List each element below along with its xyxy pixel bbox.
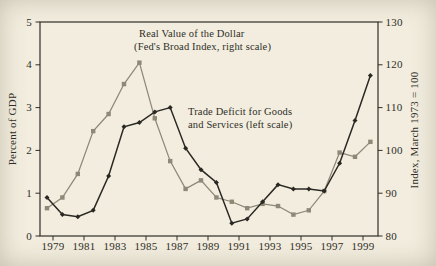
dollar-series-marker <box>353 155 357 159</box>
dollar-series-marker <box>76 172 80 176</box>
dollar-series-marker <box>307 208 311 212</box>
left-axis-tick-label: 5 <box>26 16 32 28</box>
annotation-deficit-line2: and Services (left scale) <box>188 119 292 132</box>
deficit-series-marker <box>291 186 296 191</box>
dollar-series-marker <box>106 112 110 116</box>
right-axis-tick-label: 90 <box>386 187 398 199</box>
dollar-series-marker <box>137 60 141 64</box>
right-axis-tick-label: 120 <box>386 58 404 70</box>
x-axis-tick-label: 1999 <box>351 240 374 252</box>
x-axis-tick-label: 1987 <box>165 240 188 252</box>
right-axis-tick-label: 80 <box>386 230 398 242</box>
left-axis-title: Percent of GDP <box>6 93 18 165</box>
deficit-series-marker <box>368 73 373 78</box>
annotation-deficit: Trade Deficit for Goods and Services (le… <box>188 106 292 131</box>
dollar-series-marker <box>230 200 234 204</box>
chart-page: 0123458090100110120130197919811983198519… <box>0 0 436 266</box>
dollar-series-marker <box>199 178 203 182</box>
dollar-series-marker <box>276 204 280 208</box>
x-axis-tick-label: 1997 <box>320 240 343 252</box>
dollar-series-marker <box>183 187 187 191</box>
x-axis-tick-label: 1979 <box>41 240 64 252</box>
dollar-series-marker <box>60 195 64 199</box>
deficit-series-marker <box>75 214 80 219</box>
deficit-series-marker <box>306 186 311 191</box>
dollar-series-marker <box>337 150 341 154</box>
x-axis-tick-label: 1989 <box>196 240 219 252</box>
left-axis-tick-label: 4 <box>26 58 32 70</box>
x-axis-tick-label: 1981 <box>72 240 95 252</box>
annotation-dollar: Real Value of the Dollar (Fed's Broad In… <box>134 28 271 53</box>
left-axis-tick-label: 0 <box>26 230 32 242</box>
dollar-series-marker <box>368 140 372 144</box>
x-axis-tick-label: 1983 <box>103 240 126 252</box>
right-axis-tick-label: 110 <box>386 101 403 113</box>
deficit-series-marker <box>229 221 234 226</box>
x-axis-tick-label: 1991 <box>227 240 250 252</box>
annotation-deficit-line1: Trade Deficit for Goods <box>188 106 292 119</box>
x-axis-tick-label: 1995 <box>289 240 312 252</box>
dollar-series-marker <box>122 82 126 86</box>
dollar-series-marker <box>91 129 95 133</box>
right-axis-tick-label: 100 <box>386 144 404 156</box>
deficit-series-marker <box>106 174 111 179</box>
deficit-series-line <box>47 76 370 224</box>
x-axis-tick-label: 1993 <box>258 240 281 252</box>
right-axis-title: Index, March 1973 = 100 <box>408 72 420 189</box>
dollar-series-marker <box>45 206 49 210</box>
dollar-series-marker <box>291 212 295 216</box>
deficit-series-marker <box>168 105 173 110</box>
annotation-dollar-line2: (Fed's Broad Index, right scale) <box>134 41 271 54</box>
left-axis-tick-label: 1 <box>26 187 32 199</box>
deficit-series-marker <box>353 118 358 123</box>
x-axis-tick-label: 1985 <box>134 240 157 252</box>
dollar-series-marker <box>245 206 249 210</box>
right-axis-tick-label: 130 <box>386 16 404 28</box>
left-axis-tick-label: 2 <box>26 144 32 156</box>
left-axis-tick-label: 3 <box>26 101 32 113</box>
deficit-series-marker <box>91 208 96 213</box>
dollar-series-marker <box>168 159 172 163</box>
deficit-series-marker <box>122 124 127 129</box>
dollar-series-marker <box>214 195 218 199</box>
dollar-series-line <box>47 63 370 215</box>
dollar-series-marker <box>153 116 157 120</box>
annotation-dollar-line1: Real Value of the Dollar <box>139 28 271 41</box>
